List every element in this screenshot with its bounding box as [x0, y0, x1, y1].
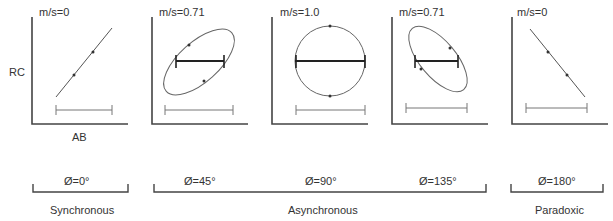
- ratio-label-2: m/s=0.71: [159, 6, 205, 18]
- direction-marker: [566, 74, 569, 77]
- direction-marker: [203, 80, 206, 83]
- ratio-label-4: m/s=0.71: [399, 6, 445, 18]
- range-bar: [406, 103, 467, 113]
- y-axis-label: RC: [9, 66, 25, 78]
- direction-marker: [449, 47, 452, 50]
- ratio-label-5: m/s=0: [517, 6, 547, 18]
- axes: [32, 17, 128, 124]
- phase-label-4: Ø=135°: [419, 175, 457, 187]
- phase-label-5: Ø=180°: [538, 175, 576, 187]
- amplitude-bar: [415, 55, 458, 68]
- direction-marker: [73, 74, 76, 77]
- direction-marker: [547, 51, 550, 54]
- trajectory-ellipse: [398, 17, 477, 101]
- group-label-synchronous: Synchronous: [50, 204, 114, 216]
- diagram-canvas: [0, 0, 613, 221]
- amplitude-bar: [176, 55, 224, 68]
- panel-4: [392, 17, 488, 124]
- panel-3: [272, 17, 368, 124]
- direction-marker: [92, 51, 95, 54]
- panel-5: [512, 17, 608, 124]
- amplitude-bar: [295, 55, 365, 68]
- group-label-asynchronous: Asynchronous: [288, 204, 358, 216]
- range-bar: [296, 105, 365, 115]
- range-bar: [56, 105, 112, 115]
- x-axis-label: AB: [72, 131, 87, 143]
- ratio-label-3: m/s=1.0: [280, 6, 319, 18]
- direction-marker: [329, 95, 332, 98]
- range-bar: [526, 103, 587, 113]
- trajectory-line: [530, 29, 585, 97]
- trajectory-line: [56, 28, 112, 97]
- phase-label-3: Ø=90°: [305, 175, 337, 187]
- panel-2: [152, 17, 248, 124]
- ratio-label-1: m/s=0: [39, 6, 69, 18]
- axes: [272, 17, 368, 124]
- axes: [152, 17, 248, 124]
- direction-marker: [420, 68, 423, 71]
- direction-marker: [188, 44, 191, 47]
- phase-label-2: Ø=45°: [184, 175, 216, 187]
- phase-label-1: Ø=0°: [64, 175, 90, 187]
- range-bar: [165, 105, 233, 115]
- direction-marker: [329, 25, 332, 28]
- panel-1: [32, 17, 128, 124]
- group-label-paradoxic: Paradoxic: [535, 204, 584, 216]
